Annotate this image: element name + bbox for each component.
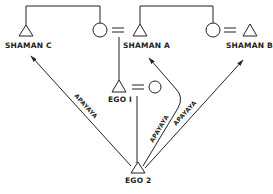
shaman-b-triangle-icon xyxy=(243,24,257,36)
shaman-c-label: SHAMAN C xyxy=(5,41,52,50)
sibling-link-left xyxy=(26,6,100,25)
apayaya-arrow-shaman-c xyxy=(31,56,131,166)
apayaya-label-c: APAYAYA xyxy=(73,92,99,120)
female-circle-icon xyxy=(93,23,107,37)
sibling-link-right xyxy=(140,6,213,24)
female-circle-icon-2 xyxy=(206,23,220,37)
ego1-wife-circle-icon xyxy=(149,81,161,93)
kinship-diagram: SHAMAN C SHAMAN A SHAMAN B EGO I EGO 2 A… xyxy=(0,0,273,194)
apayaya-arrow-shaman-b xyxy=(145,60,243,168)
shaman-b-label: SHAMAN B xyxy=(226,41,273,50)
ego2-label: EGO 2 xyxy=(125,176,152,185)
marriage-sign-icon xyxy=(112,28,124,32)
shaman-a-triangle-icon xyxy=(133,24,147,36)
shaman-a-label: SHAMAN A xyxy=(123,41,170,50)
marriage-sign-icon-2 xyxy=(224,28,236,32)
ego1-triangle-icon xyxy=(112,80,126,92)
ego1-label: EGO I xyxy=(108,95,132,104)
shaman-c-triangle-icon xyxy=(19,25,33,36)
ego2-triangle-icon xyxy=(131,162,145,173)
marriage-sign-icon-3 xyxy=(132,85,144,89)
